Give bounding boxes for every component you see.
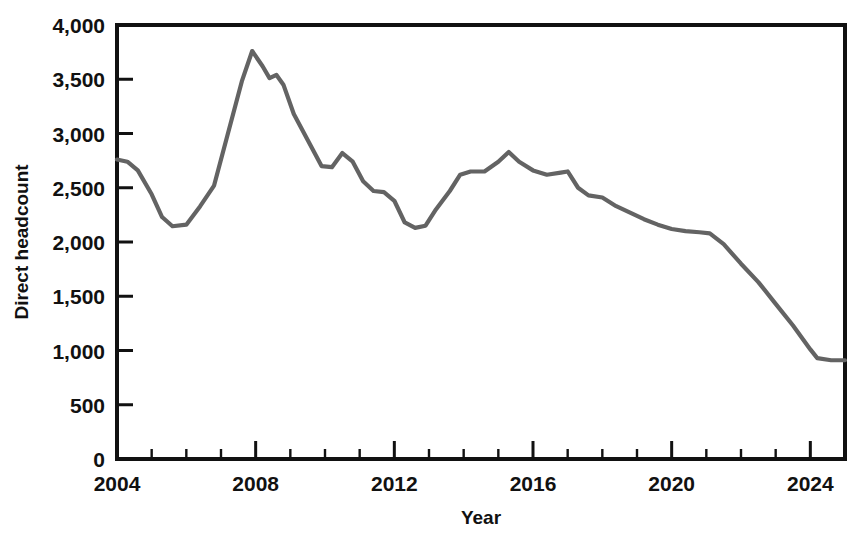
x-tick-label: 2004 xyxy=(94,472,141,495)
y-axis-ticks: 05001,0001,5002,0002,5003,0003,5004,000 xyxy=(52,14,133,471)
y-tick-label: 500 xyxy=(70,394,105,417)
line-chart: Direct headcount 05001,0001,5002,0002,50… xyxy=(0,0,865,547)
y-tick-label: 2,500 xyxy=(52,177,105,200)
y-tick-label: 0 xyxy=(93,448,105,471)
x-tick-label: 2008 xyxy=(232,472,279,495)
x-axis-title: Year xyxy=(461,507,502,528)
x-axis-ticks: 200420082012201620202024 xyxy=(94,441,845,495)
y-tick-label: 2,000 xyxy=(52,231,105,254)
x-tick-label: 2020 xyxy=(648,472,695,495)
y-tick-label: 3,500 xyxy=(52,68,105,91)
y-tick-label: 1,000 xyxy=(52,340,105,363)
y-tick-label: 3,000 xyxy=(52,123,105,146)
y-tick-label: 4,000 xyxy=(52,14,105,37)
chart-container: Direct headcount 05001,0001,5002,0002,50… xyxy=(0,0,865,547)
data-series-line xyxy=(117,51,845,360)
x-tick-label: 2016 xyxy=(510,472,557,495)
axes xyxy=(117,25,845,459)
x-tick-label: 2012 xyxy=(371,472,418,495)
y-axis-title: Direct headcount xyxy=(11,164,32,320)
y-tick-label: 1,500 xyxy=(52,285,105,308)
x-tick-label: 2024 xyxy=(787,472,834,495)
y-axis-title-group: Direct headcount xyxy=(11,164,32,320)
